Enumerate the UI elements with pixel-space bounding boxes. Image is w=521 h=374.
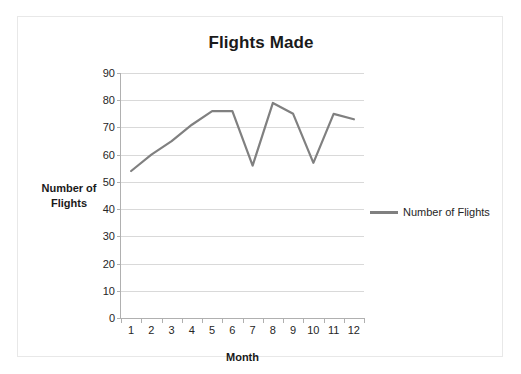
chart-title: Flights Made	[18, 33, 504, 53]
y-tick-label-60: 60	[75, 149, 115, 160]
legend-swatch-icon	[370, 211, 398, 214]
y-tick-label-70: 70	[75, 122, 115, 133]
x-tick-mark-7	[263, 318, 264, 323]
legend-label: Number of Flights	[403, 206, 490, 218]
x-tick-mark-0	[121, 318, 122, 323]
y-axis-title-line2: Flights	[51, 197, 87, 209]
x-tick-mark-9	[303, 318, 304, 323]
x-tick-mark-6	[243, 318, 244, 323]
y-tick-label-20: 20	[75, 258, 115, 269]
x-tick-mark-1	[141, 318, 142, 323]
x-tick-mark-8	[283, 318, 284, 323]
x-tick-label-12: 12	[341, 325, 367, 336]
x-tick-mark-11	[344, 318, 345, 323]
chart-container: Flights Made 0102030405060708090 1234567…	[17, 16, 503, 357]
x-tick-mark-3	[182, 318, 183, 323]
y-tick-label-10: 10	[75, 285, 115, 296]
x-tick-mark-10	[324, 318, 325, 323]
x-tick-mark-12	[364, 318, 365, 323]
y-tick-label-80: 80	[75, 95, 115, 106]
chart-legend: Number of Flights	[370, 206, 490, 218]
x-tick-mark-2	[162, 318, 163, 323]
y-axis-title-line1: Number of	[42, 182, 97, 194]
y-axis-title: Number of Flights	[24, 181, 114, 211]
y-tick-label-30: 30	[75, 231, 115, 242]
y-tick-label-0: 0	[75, 313, 115, 324]
x-tick-mark-4	[202, 318, 203, 323]
plot-area: 0102030405060708090 123456789101112	[121, 73, 364, 318]
y-tick-label-90: 90	[75, 68, 115, 79]
series-line-number-of-flights	[121, 73, 364, 318]
x-axis-title: Month	[121, 351, 364, 363]
x-tick-mark-5	[222, 318, 223, 323]
